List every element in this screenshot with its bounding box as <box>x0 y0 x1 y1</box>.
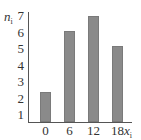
x-axis-label: xi <box>124 124 132 140</box>
y-tick-label: 4 <box>12 59 24 72</box>
x-tick-label: 0 <box>34 124 58 137</box>
y-tick-label: 5 <box>12 42 24 55</box>
x-tick-label: 6 <box>58 124 82 137</box>
y-tick-label: 3 <box>12 75 24 88</box>
bar-0 <box>40 92 51 122</box>
y-tick-label: 7 <box>12 9 24 22</box>
y-tick-label: 1 <box>12 108 24 121</box>
y-tick-label: 6 <box>12 26 24 39</box>
bar-6 <box>64 31 75 122</box>
y-tick-label: 2 <box>12 92 24 105</box>
x-tick-label: 12 <box>82 124 106 137</box>
bar-18 <box>112 46 123 122</box>
bar-12 <box>88 16 99 122</box>
y-axis-line <box>28 12 29 122</box>
bar-chart: ni 1234567 061218 xi <box>0 0 141 140</box>
